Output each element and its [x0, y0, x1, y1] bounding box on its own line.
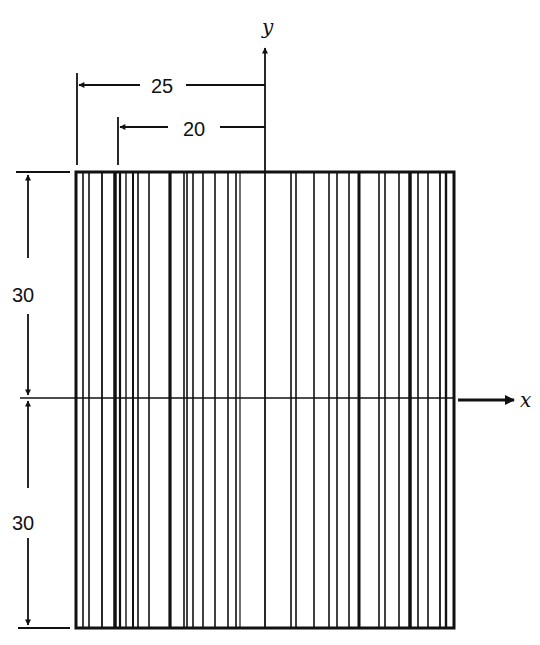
y-axis-label: y [261, 15, 274, 39]
dim-label-30-upper: 30 [12, 284, 34, 306]
dim-label-30-lower: 30 [12, 512, 34, 534]
dim-label-25: 25 [151, 75, 173, 97]
cross-section-diagram: x y 25 20 30 30 [0, 0, 540, 645]
dim-label-20: 20 [183, 118, 205, 140]
x-axis-label: x [520, 388, 531, 412]
